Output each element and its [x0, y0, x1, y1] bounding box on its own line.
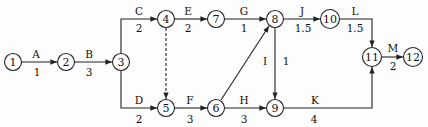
label-C: C: [135, 5, 143, 17]
network-diagram: A 1 B 3 C 2 D 2 E 2 F 3 G 1 H 3 I 1 J 1.…: [0, 0, 428, 127]
duration-B: 3: [86, 66, 93, 78]
label-G: G: [240, 5, 248, 17]
duration-G: 1: [241, 22, 248, 34]
duration-M: 2: [390, 60, 397, 72]
svg-text:9: 9: [272, 102, 279, 115]
label-F: F: [186, 94, 193, 106]
duration-A: 1: [34, 66, 41, 78]
svg-text:1: 1: [10, 56, 17, 69]
svg-text:7: 7: [213, 13, 220, 26]
label-L: L: [352, 5, 359, 17]
node-11: 11: [363, 48, 382, 67]
label-J: J: [299, 5, 304, 17]
node-10: 10: [321, 10, 340, 29]
duration-F: 3: [187, 113, 194, 125]
label-I: I: [263, 55, 267, 67]
node-5: 5: [158, 100, 175, 117]
node-1: 1: [5, 54, 22, 71]
duration-K: 4: [311, 113, 318, 125]
label-H: H: [239, 94, 248, 106]
duration-E: 2: [185, 22, 192, 34]
svg-text:2: 2: [63, 56, 70, 69]
svg-text:3: 3: [118, 56, 125, 69]
svg-text:11: 11: [365, 51, 379, 64]
duration-H: 3: [241, 113, 248, 125]
label-E: E: [184, 5, 192, 17]
duration-C: 2: [136, 22, 143, 34]
label-A: A: [31, 48, 40, 60]
svg-text:5: 5: [163, 102, 170, 115]
svg-text:4: 4: [163, 13, 170, 26]
node-2: 2: [58, 54, 75, 71]
duration-J: 1.5: [295, 22, 312, 34]
svg-text:10: 10: [323, 13, 337, 26]
node-3: 3: [113, 54, 130, 71]
svg-text:12: 12: [406, 51, 420, 64]
node-12: 12: [404, 48, 423, 67]
node-8: 8: [267, 11, 284, 28]
label-K: K: [311, 94, 319, 106]
duration-D: 2: [136, 113, 143, 125]
node-4: 4: [158, 11, 175, 28]
network-svg: A 1 B 3 C 2 D 2 E 2 F 3 G 1 H 3 I 1 J 1.…: [0, 0, 428, 127]
edge-K: [284, 67, 372, 108]
label-D: D: [135, 94, 143, 106]
duration-L: 1.5: [347, 22, 364, 34]
edge-6-8: [221, 26, 269, 100]
node-9: 9: [267, 100, 284, 117]
node-6: 6: [208, 100, 225, 117]
duration-I: 1: [283, 55, 290, 67]
label-M: M: [388, 42, 399, 54]
svg-text:6: 6: [213, 102, 220, 115]
label-B: B: [85, 48, 93, 60]
node-7: 7: [208, 11, 225, 28]
svg-text:8: 8: [272, 13, 279, 26]
